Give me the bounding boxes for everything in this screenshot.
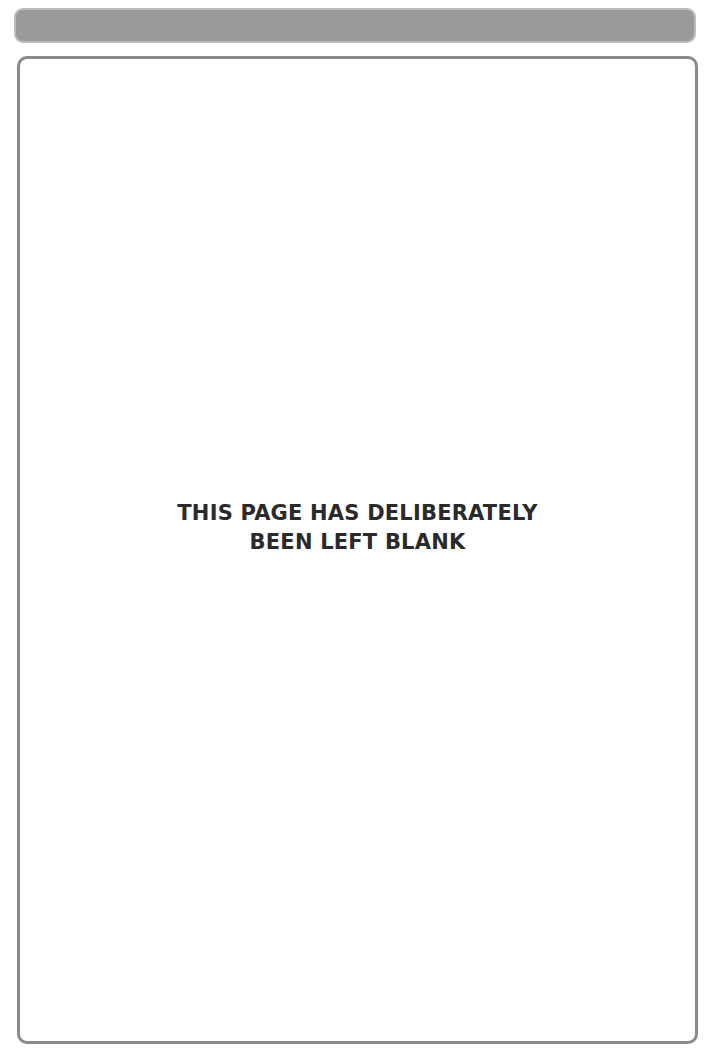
- header-bar: [14, 8, 696, 43]
- page-frame: THIS PAGE HAS DELIBERATELY BEEN LEFT BLA…: [17, 56, 698, 1044]
- notice-line-1: THIS PAGE HAS DELIBERATELY: [20, 499, 695, 528]
- blank-page-notice: THIS PAGE HAS DELIBERATELY BEEN LEFT BLA…: [20, 499, 695, 557]
- notice-line-2: BEEN LEFT BLANK: [20, 528, 695, 557]
